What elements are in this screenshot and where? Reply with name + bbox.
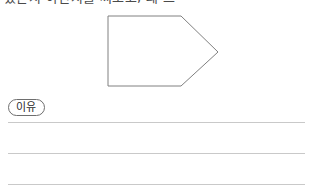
page-title: 있는지 아닌지를 써보고, 왜 그 — [4, 0, 175, 5]
pentagon-shape-svg — [0, 7, 313, 93]
answer-line-2 — [8, 153, 305, 154]
header-text-clip: 있는지 아닌지를 써보고, 왜 그 — [0, 0, 313, 7]
figure-container — [0, 7, 313, 93]
pentagon-arrow-icon — [108, 16, 218, 86]
reason-label-badge: 이유 — [8, 99, 45, 116]
answer-line-1 — [8, 122, 305, 123]
answer-line-3 — [8, 184, 305, 185]
